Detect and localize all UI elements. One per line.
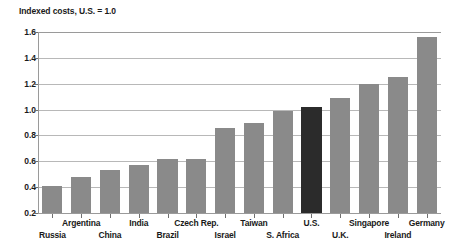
x-axis-label: Israel: [214, 230, 235, 240]
x-axis-label: Singapore: [349, 218, 389, 228]
bar: [273, 111, 293, 214]
x-axis-label: Taiwan: [240, 218, 267, 228]
bar: [359, 84, 379, 214]
x-axis-tick: [110, 214, 111, 218]
y-axis-tick-label: 1.0: [2, 105, 36, 115]
x-axis-label: Brazil: [156, 230, 178, 240]
bar: [100, 170, 120, 214]
bar: [244, 123, 264, 215]
bar: [71, 177, 91, 214]
x-axis-tick: [254, 214, 255, 218]
x-axis-tick: [283, 214, 284, 218]
x-axis-label: Germany: [409, 218, 445, 228]
x-axis-tick: [52, 214, 53, 218]
x-axis-label: Czech Rep.: [174, 218, 218, 228]
x-axis-tick: [427, 214, 428, 218]
bar: [330, 98, 350, 214]
bars-container: [38, 32, 441, 214]
bar: [301, 107, 321, 214]
bar: [388, 77, 408, 214]
x-axis-tick: [139, 214, 140, 218]
x-axis-tick: [81, 214, 82, 218]
x-axis-tick: [369, 214, 370, 218]
bar-chart: Indexed costs, U.S. = 1.0 1.61.41.21.00.…: [0, 0, 451, 247]
y-axis-tick-label: 0.4: [2, 182, 36, 192]
x-axis-tick: [196, 214, 197, 218]
chart-title: Indexed costs, U.S. = 1.0: [19, 6, 116, 16]
y-axis-tick-label: 1.4: [2, 53, 36, 63]
y-axis-tick-label: 1.6: [2, 27, 36, 37]
x-axis-label: U.S.: [303, 218, 319, 228]
bar: [157, 159, 177, 214]
y-axis-tick-label: 0.6: [2, 156, 36, 166]
bar: [42, 186, 62, 214]
x-axis-label: Russia: [39, 230, 66, 240]
x-axis-label: Ireland: [384, 230, 411, 240]
bar: [129, 165, 149, 214]
y-axis-tick-label: 0.8: [2, 130, 36, 140]
y-axis-tick-label: 1.2: [2, 79, 36, 89]
x-axis-label: China: [99, 230, 122, 240]
bar: [417, 37, 437, 214]
bar: [215, 128, 235, 214]
x-axis-tick: [398, 214, 399, 218]
bar: [186, 159, 206, 214]
x-axis-label: U.K.: [332, 230, 348, 240]
y-axis-labels: 1.61.41.21.00.80.60.40.2: [0, 32, 36, 214]
x-axis-label: Argentina: [62, 218, 100, 228]
x-axis-tick: [168, 214, 169, 218]
x-axis-label: India: [129, 218, 148, 228]
x-axis-label: S. Africa: [266, 230, 299, 240]
x-axis-tick: [225, 214, 226, 218]
x-axis-tick: [311, 214, 312, 218]
x-axis-tick: [340, 214, 341, 218]
x-axis-labels: RussiaArgentinaChinaIndiaBrazilCzech Rep…: [0, 213, 451, 247]
